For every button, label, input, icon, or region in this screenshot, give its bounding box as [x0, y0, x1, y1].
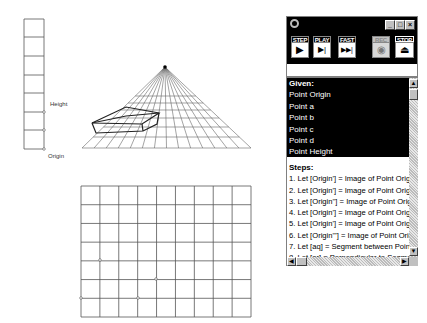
- point[interactable]: [137, 297, 140, 300]
- point[interactable]: [80, 297, 83, 300]
- perspective-ray[interactable]: [82, 67, 165, 148]
- given-item[interactable]: Point Origin: [289, 89, 409, 100]
- stop-caption: STOP: [395, 36, 414, 42]
- given-item[interactable]: Point b: [289, 112, 409, 123]
- perspective-ray[interactable]: [165, 67, 215, 148]
- point[interactable]: [43, 148, 46, 151]
- record-icon: ◉: [372, 42, 390, 58]
- record-button[interactable]: REC ◉: [372, 36, 390, 59]
- perspective-ray[interactable]: [142, 67, 165, 148]
- horizontal-scrollbar[interactable]: ◀ ▶: [287, 257, 409, 266]
- comment-field[interactable]: [287, 64, 417, 78]
- scroll-down-arrow-icon[interactable]: ▼: [409, 247, 418, 256]
- fast-caption: FAST: [338, 36, 356, 42]
- step-item[interactable]: 7. Let [aq] = Segment between Points: [289, 241, 409, 252]
- step-item[interactable]: 6. Let [Origin'''] = Image of Point Orig…: [289, 230, 409, 241]
- given-item[interactable]: Point a: [289, 101, 409, 112]
- vanishing-point[interactable]: [163, 65, 167, 69]
- minimize-button[interactable]: _: [385, 20, 395, 30]
- script-view-window: _ □ × STEP ▶ PLAY ▶| FAST ▶▶| REC ◉ STOP…: [286, 16, 418, 266]
- step-icon: ▶: [291, 42, 309, 58]
- maximize-button[interactable]: □: [395, 20, 405, 30]
- scroll-thumb[interactable]: [409, 89, 418, 100]
- resize-grip-icon[interactable]: [409, 257, 418, 266]
- play-caption: PLAY: [313, 36, 331, 42]
- step-item[interactable]: 4. Let [Origin'] = Image of Point Origin: [289, 207, 409, 218]
- vertical-scrollbar[interactable]: ▲ ▼: [409, 78, 418, 257]
- step-item[interactable]: 1. Let [Origin'] = Image of Point Origin: [289, 173, 409, 184]
- app-icon: [290, 19, 299, 28]
- point[interactable]: [99, 259, 102, 262]
- given-item[interactable]: Point c: [289, 124, 409, 135]
- perspective-ray[interactable]: [165, 67, 167, 148]
- scroll-left-arrow-icon[interactable]: ◀: [287, 257, 296, 266]
- perspective-ray[interactable]: [165, 67, 227, 148]
- height-label: Height: [50, 101, 67, 107]
- point[interactable]: [155, 278, 158, 281]
- scroll-thumb-horizontal[interactable]: [296, 257, 307, 266]
- close-button[interactable]: ×: [405, 20, 415, 30]
- given-list[interactable]: Given: Point Origin Point a Point b Poin…: [287, 78, 409, 157]
- step-button[interactable]: STEP ▶: [291, 36, 309, 59]
- step-caption: STEP: [291, 36, 309, 42]
- fast-button[interactable]: FAST ▶▶|: [338, 36, 356, 59]
- fast-icon: ▶▶|: [338, 42, 356, 58]
- perspective-ray[interactable]: [165, 67, 239, 148]
- point[interactable]: [43, 111, 46, 114]
- box-edge[interactable]: [142, 124, 143, 131]
- step-item[interactable]: 3. Let [Origin''] = Image of Point Origi…: [289, 196, 409, 207]
- play-icon: ▶|: [313, 42, 331, 58]
- title-bar[interactable]: _ □ × STEP ▶ PLAY ▶| FAST ▶▶| REC ◉ STOP…: [287, 17, 417, 64]
- play-button[interactable]: PLAY ▶|: [313, 36, 331, 59]
- step-item[interactable]: 5. Let [Origin'] = Image of Point Origin: [289, 218, 409, 229]
- scroll-up-arrow-icon[interactable]: ▲: [409, 79, 418, 88]
- origin-label: Origin: [48, 153, 64, 159]
- perspective-ray[interactable]: [165, 67, 179, 148]
- step-item[interactable]: 2. Let [Origin'] = Image of Point Origin: [289, 185, 409, 196]
- given-header: Given:: [289, 78, 409, 89]
- given-item[interactable]: Point d: [289, 135, 409, 146]
- scroll-right-arrow-icon[interactable]: ▶: [400, 257, 409, 266]
- steps-header: Steps:: [289, 162, 409, 173]
- stop-icon: ⏏: [395, 42, 414, 58]
- perspective-ray[interactable]: [165, 67, 203, 148]
- steps-list[interactable]: Steps: 1. Let [Origin'] = Image of Point…: [287, 157, 409, 257]
- stop-button[interactable]: STOP ⏏: [395, 36, 414, 59]
- point[interactable]: [43, 129, 46, 132]
